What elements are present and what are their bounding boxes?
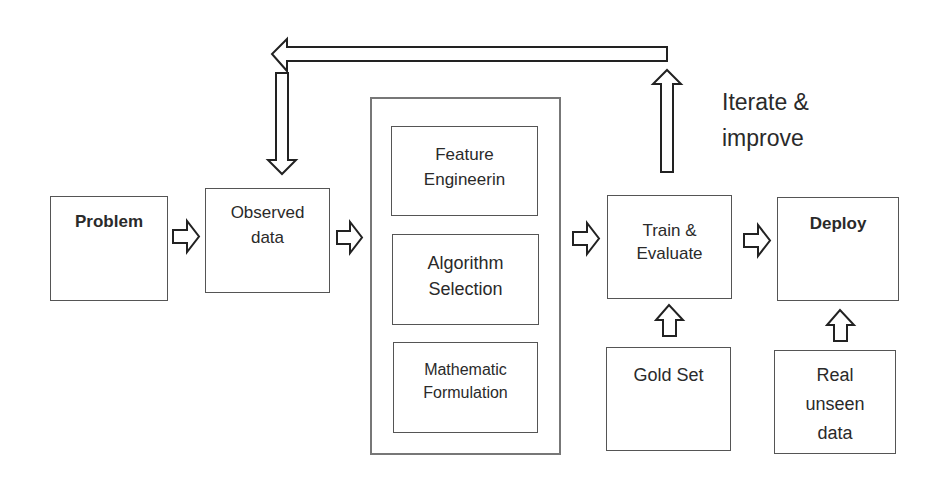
- node-deploy: Deploy: [777, 197, 899, 301]
- node-gold-set: Gold Set: [606, 347, 731, 451]
- iterate-improve-line2: improve: [722, 121, 809, 157]
- node-real-unseen-data: Real unseen data: [774, 350, 896, 454]
- arrow-observed-to-modeling: [337, 222, 362, 253]
- node-feature-engineering: Feature Engineerin: [391, 126, 538, 216]
- node-observed-data-line1: Observed: [206, 201, 329, 226]
- arrow-train-to-deploy: [744, 225, 770, 256]
- arrow-problem-to-observed: [173, 221, 199, 252]
- feedback-up-arrow: [653, 70, 681, 172]
- node-gold-set-label: Gold Set: [607, 362, 730, 388]
- node-real-unseen-data-line1: Real: [775, 361, 895, 390]
- iterate-improve-annotation: Iterate & improve: [722, 85, 809, 156]
- node-feature-engineering-line1: Feature: [392, 143, 537, 168]
- node-mathematic-formulation: Mathematic Formulation: [393, 342, 538, 433]
- node-mathematic-formulation-line1: Mathematic: [394, 358, 537, 381]
- node-train-evaluate: Train & Evaluate: [607, 195, 732, 299]
- node-algorithm-selection-line1: Algorithm: [393, 250, 538, 276]
- node-real-unseen-data-line2: unseen: [775, 390, 895, 419]
- node-problem: Problem: [50, 196, 168, 301]
- node-algorithm-selection-line2: Selection: [393, 276, 538, 302]
- feedback-left-arrow: [272, 39, 667, 71]
- arrow-real-to-deploy: [827, 310, 854, 341]
- node-observed-data-line2: data: [206, 226, 329, 251]
- node-algorithm-selection: Algorithm Selection: [392, 234, 539, 325]
- node-deploy-label: Deploy: [778, 212, 898, 237]
- feedback-down-arrow: [268, 73, 296, 174]
- iterate-improve-line1: Iterate &: [722, 85, 809, 121]
- arrow-gold-to-train: [656, 305, 683, 336]
- node-problem-label: Problem: [51, 210, 167, 235]
- node-observed-data: Observed data: [205, 188, 330, 293]
- node-feature-engineering-line2: Engineerin: [392, 168, 537, 193]
- node-mathematic-formulation-line2: Formulation: [394, 381, 537, 404]
- arrow-modeling-to-train: [573, 223, 599, 254]
- node-real-unseen-data-line3: data: [775, 419, 895, 448]
- node-train-evaluate-line2: Evaluate: [608, 242, 731, 267]
